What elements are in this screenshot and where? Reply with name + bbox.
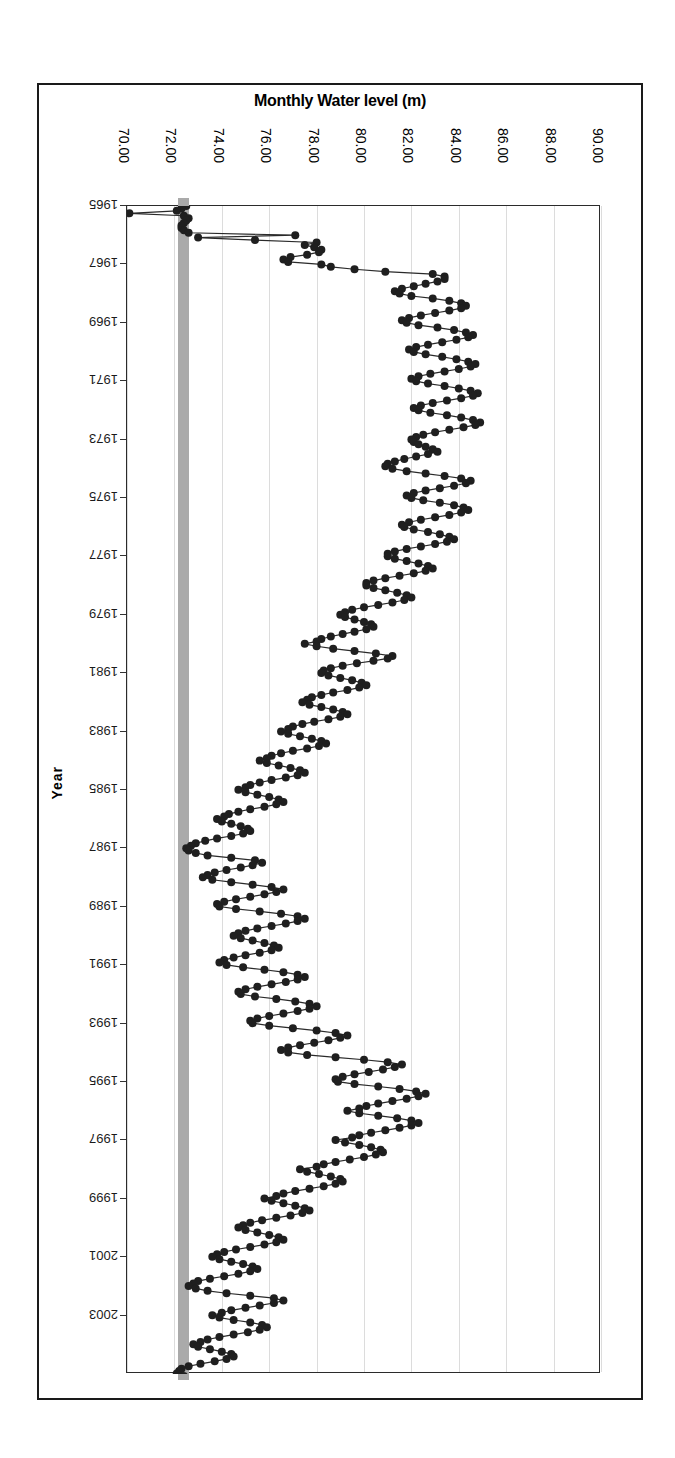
y-tick-label-1965: 1965 (89, 197, 118, 212)
y-tick-mark (120, 1023, 126, 1024)
y-tick-label-1971: 1971 (89, 372, 118, 387)
y-tick-mark (120, 614, 126, 615)
y-tick-mark (120, 380, 126, 381)
y-tick-label-1975: 1975 (89, 489, 118, 504)
y-tick-label-2001: 2001 (89, 1248, 118, 1263)
y-tick-label-1973: 1973 (89, 431, 118, 446)
y-tick-mark (120, 322, 126, 323)
y-tick-label-1979: 1979 (89, 606, 118, 621)
y-tick-mark (120, 555, 126, 556)
y-tick-label-1977: 1977 (89, 547, 118, 562)
y-tick-mark (120, 205, 126, 206)
y-tick-label-1989: 1989 (89, 898, 118, 913)
y-tick-label-1967: 1967 (89, 255, 118, 270)
y-tick-label-1999: 1999 (89, 1190, 118, 1205)
y-tick-mark (120, 847, 126, 848)
y-tick-label-1997: 1997 (89, 1131, 118, 1146)
y-tick-mark (120, 497, 126, 498)
y-tick-mark (120, 1081, 126, 1082)
y-tick-mark (120, 439, 126, 440)
y-tick-mark (120, 789, 126, 790)
y-tick-label-1969: 1969 (89, 314, 118, 329)
y-tick-mark (120, 672, 126, 673)
y-tick-mark (120, 964, 126, 965)
y-tick-mark (120, 1315, 126, 1316)
y-tick-mark (120, 731, 126, 732)
y-tick-label-1981: 1981 (89, 664, 118, 679)
y-tick-mark (120, 1139, 126, 1140)
y-axis-title: Year (49, 766, 65, 800)
y-tick-label-1993: 1993 (89, 1015, 118, 1030)
y-tick-label-1983: 1983 (89, 723, 118, 738)
y-tick-label-1991: 1991 (89, 956, 118, 971)
y-tick-label-1985: 1985 (89, 781, 118, 796)
y-tick-mark (120, 1256, 126, 1257)
y-tick-label-1995: 1995 (89, 1073, 118, 1088)
y-axis-tick-label-group: 1965196719691971197319751977197919811983… (0, 0, 675, 1458)
y-tick-label-2003: 2003 (89, 1307, 118, 1322)
y-tick-mark (120, 263, 126, 264)
y-tick-mark (120, 1198, 126, 1199)
y-tick-label-1987: 1987 (89, 839, 118, 854)
y-tick-mark (120, 906, 126, 907)
